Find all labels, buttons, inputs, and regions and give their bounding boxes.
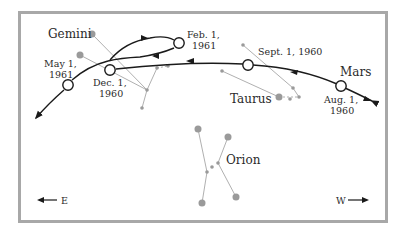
orion-star-bellatrix — [225, 134, 232, 141]
mars-retrograde-diagram: Gemini Taurus Orion Mars Aug. 1, 1960 Se… — [0, 0, 403, 237]
orion-star-rigel — [233, 194, 240, 201]
orion-belt-star — [205, 170, 209, 174]
mars-label: Mars — [340, 65, 371, 79]
dec-date-label-line1: Dec. 1, — [93, 77, 127, 88]
sept-date-label: Sept. 1, 1960 — [258, 46, 322, 57]
orion-belt-star — [210, 165, 214, 169]
taurus-star — [220, 69, 224, 73]
west-label: W — [336, 195, 346, 206]
taurus-label: Taurus — [230, 92, 272, 106]
taurus-star-aldebaran — [276, 94, 283, 101]
taurus-star — [288, 97, 292, 101]
mars-position-may — [63, 80, 73, 90]
taurus-star — [297, 95, 301, 99]
orion-star-saiph — [199, 200, 206, 207]
gemini-label: Gemini — [48, 27, 92, 41]
feb-date-label-line2: 1961 — [192, 40, 216, 51]
taurus-star — [241, 43, 245, 47]
dec-date-label-line2: 1960 — [99, 88, 123, 99]
mars-position-aug — [336, 81, 346, 91]
orion-star-betelgeuse — [195, 126, 202, 133]
feb-date-label-line1: Feb. 1, — [187, 29, 220, 40]
gemini-star-pollux — [77, 52, 84, 59]
aug-date-label-line1: Aug. 1, — [323, 94, 358, 105]
mars-position-dec — [105, 65, 115, 75]
may-date-label-line1: May 1, — [44, 58, 77, 69]
east-label: E — [61, 195, 68, 206]
taurus-star — [291, 86, 295, 90]
orion-belt-star — [216, 161, 220, 165]
gemini-star — [140, 106, 144, 110]
orion-label: Orion — [226, 153, 261, 167]
mars-position-feb — [174, 38, 184, 48]
aug-date-label-line2: 1960 — [330, 105, 354, 116]
mars-position-sept — [243, 60, 253, 70]
gemini-star — [145, 88, 149, 92]
gemini-star — [155, 66, 159, 70]
may-date-label-line2: 1961 — [49, 69, 73, 80]
